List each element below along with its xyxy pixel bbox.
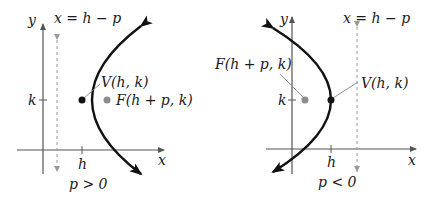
- left-directrix-label: x = h − p: [54, 11, 121, 25]
- left-focus-point: [104, 97, 111, 104]
- left-k-tick-label: k: [28, 93, 36, 107]
- left-condition-label: p > 0: [69, 177, 108, 191]
- left-h-tick-label: h: [78, 157, 87, 171]
- right-y-axis-label: y: [280, 12, 288, 26]
- right-x-axis-label: x: [408, 153, 416, 167]
- right-vertex-point: [328, 97, 335, 104]
- parabola-diagrams: y x = h − p k h x V(h, k) F(h + p, k) p …: [0, 0, 431, 207]
- right-vertex-leader: [333, 82, 358, 98]
- left-vertex-point: [79, 97, 86, 104]
- right-condition-label: p < 0: [318, 175, 357, 189]
- left-vertex-label: V(h, k): [101, 75, 148, 89]
- right-focus-point: [302, 97, 309, 104]
- right-h-tick-label: h: [327, 155, 336, 169]
- right-vertex-label: V(h, k): [361, 76, 408, 90]
- diagram-graphics: [0, 0, 431, 207]
- right-directrix-label: x = h − p: [343, 11, 410, 25]
- left-y-axis-label: y: [28, 13, 36, 27]
- right-focus-label: F(h + p, k): [215, 57, 292, 71]
- right-panel-graph: [266, 17, 416, 174]
- left-x-axis-label: x: [158, 153, 166, 167]
- right-k-tick-label: k: [278, 93, 286, 107]
- left-focus-label: F(h + p, k): [116, 93, 193, 107]
